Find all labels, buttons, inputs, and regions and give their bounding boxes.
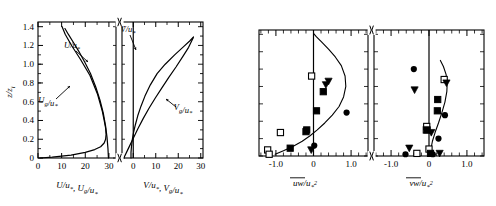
figure-canvas: 00.20.40.60.81.01.21.401020300102030-1.0… <box>0 0 496 206</box>
ytick-label: 1.0 <box>23 59 35 69</box>
curve-label-ug: Ug/u* <box>38 95 58 109</box>
x-axis-label-vw: vw/u*2 <box>409 178 432 190</box>
axis-break-symbol <box>368 25 376 35</box>
xtick-label: 1.0 <box>461 159 473 169</box>
marker-filled-square <box>304 127 310 133</box>
leader-line <box>76 51 88 62</box>
marker-filled-square <box>320 89 326 95</box>
xtick-label: 1.0 <box>345 159 357 169</box>
marker-filled-circle <box>402 151 408 157</box>
marker-filled-square <box>434 108 440 114</box>
marker-filled-triangle-down <box>411 87 418 94</box>
xtick-label: 0 <box>131 161 136 171</box>
ytick-label: 0 <box>30 153 35 163</box>
curve-label-u: U/u* <box>64 40 81 52</box>
marker-filled-circle <box>343 109 349 115</box>
marker-open-square <box>309 73 315 79</box>
curve-model-curve <box>275 33 346 154</box>
marker-filled-circle <box>435 136 441 142</box>
xtick-label: 30 <box>104 161 114 171</box>
axis-break-symbol <box>116 153 124 163</box>
marker-open-square <box>414 150 420 156</box>
ytick-label: 0.8 <box>23 78 35 88</box>
marker-filled-triangle-down <box>406 145 413 152</box>
marker-filled-square <box>287 145 293 151</box>
marker-filled-circle <box>430 151 436 157</box>
xtick-label: -1.0 <box>269 159 284 169</box>
panel-frame-panel-a-left <box>38 22 116 158</box>
ytick-label: 1.2 <box>23 40 34 50</box>
xtick-label: 10 <box>151 161 161 171</box>
ytick-label: 0.4 <box>23 115 35 125</box>
figure-root: 00.20.40.60.81.01.21.401020300102030-1.0… <box>0 0 496 206</box>
xtick-label: 30 <box>196 161 206 171</box>
marker-filled-square <box>435 96 441 102</box>
x-axis-label-b: V/u*, Vg/u* <box>143 180 183 197</box>
marker-open-square <box>266 151 272 157</box>
marker-filled-circle <box>442 112 448 118</box>
marker-open-square <box>277 129 283 135</box>
marker-filled-square <box>313 108 319 114</box>
marker-filled-circle <box>411 66 417 72</box>
ytick-label: 0.6 <box>23 97 35 107</box>
axis-break-symbol <box>368 151 376 161</box>
x-axis-label-uw: uw/u*2 <box>293 178 317 190</box>
xtick-label: 20 <box>81 161 91 171</box>
ytick-label: 1.4 <box>23 22 35 32</box>
leader-line <box>56 86 70 99</box>
ytick-label: 0.2 <box>23 134 34 144</box>
curve-label-vg: Vg/u* <box>174 102 193 116</box>
xtick-label: 20 <box>174 161 184 171</box>
y-axis-label: z/zi <box>4 86 16 99</box>
xtick-label: 0 <box>36 161 41 171</box>
xtick-label: 10 <box>57 161 67 171</box>
xtick-label: 0 <box>311 159 316 169</box>
x-axis-label-a: U/u*, Ug/u* <box>56 180 98 197</box>
curve-Vg/u* <box>124 38 193 158</box>
curve-label-v: V/u* <box>120 24 136 36</box>
xtick-label: 0 <box>427 159 432 169</box>
marker-filled-circle <box>311 142 317 148</box>
xtick-label: -1.0 <box>384 159 399 169</box>
marker-filled-triangle-down <box>443 80 450 87</box>
